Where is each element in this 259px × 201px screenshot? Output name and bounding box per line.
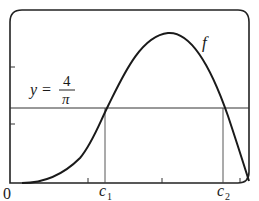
x-label-c2-sub: 2 (225, 191, 230, 201)
curve-label-f: f (202, 33, 209, 52)
x-label-c2: c (217, 182, 224, 199)
x-label-c1-sub: 1 (107, 191, 112, 201)
x-label-zero: 0 (3, 185, 11, 201)
chart-figure: f y = 4 π 0 c 1 c 2 (0, 0, 259, 201)
x-label-c1: c (99, 182, 106, 199)
hline-label-lhs: y (28, 81, 38, 99)
hline-label-den: π (62, 91, 70, 107)
hline-label-eq: = (42, 81, 51, 98)
hline-label-num: 4 (63, 73, 71, 89)
